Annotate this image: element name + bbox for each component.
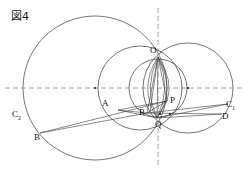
dot-right-of-Q — [169, 113, 171, 115]
point-A-letter: A — [102, 98, 109, 108]
axes-group — [5, 8, 243, 168]
dot-center-right-circle — [187, 87, 189, 89]
point-C2-subscript: 2 — [18, 115, 21, 121]
point-C2-label: C2 — [12, 110, 21, 121]
point-B-letter: B — [34, 132, 40, 142]
segment-B-R — [40, 113, 147, 133]
point-R-letter: R — [139, 107, 145, 117]
arc-O-to-Q-right — [157, 57, 167, 118]
point-P-letter: P — [170, 95, 175, 105]
point-Q-letter: Q — [155, 119, 162, 129]
point-D-label: D — [222, 112, 229, 121]
dot-center-left-circle — [94, 87, 96, 89]
point-R-label: R — [139, 108, 145, 117]
point-P-label: P — [170, 96, 175, 105]
point-C1-label: C1 — [226, 100, 235, 111]
geometry-canvas — [0, 0, 248, 173]
arcs-group — [148, 57, 169, 118]
point-D-letter: D — [222, 111, 229, 121]
point-O-label: O — [150, 46, 157, 55]
point-C1-subscript: 1 — [232, 105, 235, 111]
point-B-label: B — [34, 133, 40, 142]
point-O-letter: O — [150, 45, 157, 55]
dot-near-Q — [159, 113, 161, 115]
point-A-label: A — [102, 99, 109, 108]
segments-group — [40, 57, 228, 133]
figure-caption: 図4 — [11, 7, 29, 23]
segment-P-Q — [157, 101, 167, 118]
arc-O-to-P-bulge — [158, 57, 169, 101]
figure-root: 図4 OPQRABDC1C2 — [0, 0, 248, 173]
point-Q-label: Q — [155, 120, 162, 129]
segment-R-C1 — [147, 104, 228, 113]
